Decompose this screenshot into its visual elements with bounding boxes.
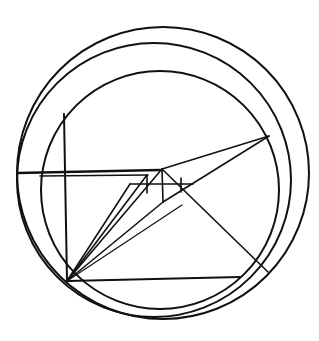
diagram-canvas xyxy=(0,0,319,341)
geometric-construction-diagram xyxy=(0,0,319,341)
upper-horizontal-line-2 xyxy=(40,175,148,176)
apex-vertical xyxy=(162,169,163,202)
